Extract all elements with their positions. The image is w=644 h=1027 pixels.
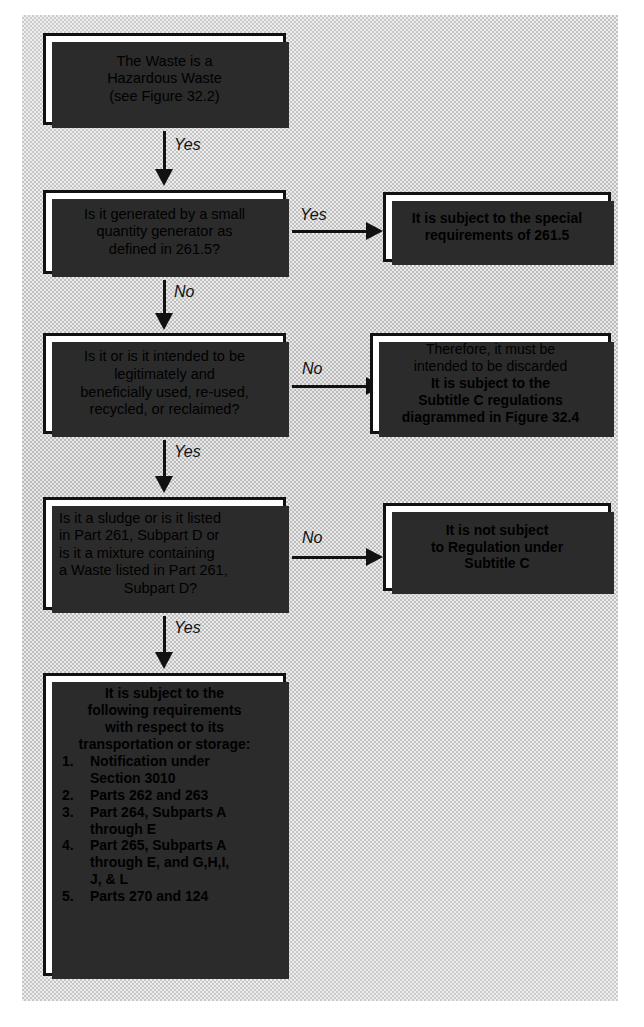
node-r2-line-4: Subtitle C regulations <box>381 392 600 409</box>
node-q1-line-2: quantity generator as <box>54 223 275 241</box>
node-r1: It is subject to the special requirement… <box>383 192 611 262</box>
list-item-line: Part 264, Subparts A <box>90 804 273 821</box>
edge-label-q1-to-q2: No <box>174 283 194 301</box>
node-start-line-3: (see Figure 32.2) <box>54 88 275 106</box>
node-q2-line-3: beneficially used, re-used, <box>54 384 275 402</box>
node-r1-line-1: It is subject to the special <box>394 210 600 227</box>
arrowhead-start-to-q1 <box>155 169 173 186</box>
list-item: 1. Notification under Section 3010 <box>56 753 273 787</box>
node-q3-line-5: Subpart D? <box>59 580 275 598</box>
connector-q1-to-r1 <box>292 230 374 233</box>
node-q2-line-2: legitimately and <box>54 366 275 384</box>
node-r3: It is not subject to Regulation under Su… <box>383 503 611 591</box>
node-start: The Waste is a Hazardous Waste (see Figu… <box>43 33 286 125</box>
connector-q2-to-r2 <box>292 385 374 388</box>
list-item-number: 3. <box>62 804 86 821</box>
arrowhead-q2-to-q3 <box>155 476 173 493</box>
node-r3-line-2: to Regulation under <box>394 539 600 556</box>
list-item-number: 1. <box>62 753 86 770</box>
arrowhead-q3-to-final <box>155 652 173 669</box>
list-item-line: through E <box>90 821 273 838</box>
node-r3-line-1: It is not subject <box>394 522 600 539</box>
list-item-line: Part 265, Subparts A <box>90 837 273 854</box>
edge-label-q2-to-r2: No <box>302 360 322 378</box>
node-q1-line-3: defined in 261.5? <box>54 241 275 259</box>
node-r2-line-3: It is subject to the <box>381 375 600 392</box>
node-start-line-1: The Waste is a <box>54 53 275 71</box>
edge-label-start-to-q1: Yes <box>174 136 201 154</box>
node-q2: Is it or is it intended to be legitimate… <box>43 333 286 434</box>
connector-q3-to-r3 <box>292 556 374 559</box>
node-q3: Is it a sludge or is it listed in Part 2… <box>43 497 286 610</box>
list-item-line: Notification under <box>90 753 273 770</box>
list-item: 2. Parts 262 and 263 <box>56 787 273 804</box>
node-final-head-3: with respect to its <box>56 719 273 736</box>
edge-label-q2-to-q3: Yes <box>174 443 201 461</box>
node-q1-line-1: Is it generated by a small <box>54 206 275 224</box>
node-final-head-1: It is subject to the <box>56 685 273 702</box>
node-q3-line-1: Is it a sludge or is it listed <box>59 510 275 528</box>
list-item-line: Section 3010 <box>90 770 273 787</box>
node-final-requirements: It is subject to the following requireme… <box>43 673 286 976</box>
node-q3-line-2: in Part 261, Subpart D or <box>59 527 275 545</box>
node-q3-line-4: a Waste listed in Part 261, <box>59 562 275 580</box>
node-start-line-2: Hazardous Waste <box>54 70 275 88</box>
arrowhead-q1-to-r1 <box>366 222 383 240</box>
edge-label-q3-to-final: Yes <box>174 619 201 637</box>
node-final-head-2: following requirements <box>56 702 273 719</box>
node-r3-line-3: Subtitle C <box>394 555 600 572</box>
edge-label-q3-to-r3: No <box>302 529 322 547</box>
edge-label-q1-to-r1: Yes <box>300 206 327 224</box>
node-q2-line-1: Is it or is it intended to be <box>54 348 275 366</box>
list-item-number: 2. <box>62 787 86 804</box>
node-final-head-4: transportation or storage: <box>56 736 273 753</box>
list-item-line: J, & L <box>90 871 273 888</box>
list-item: 4. Part 265, Subparts A through E, and G… <box>56 837 273 888</box>
list-item-number: 4. <box>62 837 86 854</box>
figure-canvas: The Waste is a Hazardous Waste (see Figu… <box>0 0 644 1027</box>
node-r2-line-1: Therefore, it must be <box>381 341 600 358</box>
node-r2: Therefore, it must be intended to be dis… <box>370 333 611 434</box>
list-item-number: 5. <box>62 888 86 905</box>
list-item-line: Parts 270 and 124 <box>90 888 273 905</box>
node-r2-line-5: diagrammed in Figure 32.4 <box>381 409 600 426</box>
node-q1: Is it generated by a small quantity gene… <box>43 190 286 274</box>
list-item: 3. Part 264, Subparts A through E <box>56 804 273 838</box>
node-r2-line-2: intended to be discarded <box>381 358 600 375</box>
node-q2-line-4: recycled, or reclaimed? <box>54 401 275 419</box>
arrowhead-q1-to-q2 <box>155 313 173 330</box>
arrowhead-q3-to-r3 <box>366 548 383 566</box>
final-requirements-list: 1. Notification under Section 3010 2. Pa… <box>56 753 273 905</box>
list-item-line: through E, and G,H,I, <box>90 854 273 871</box>
list-item: 5. Parts 270 and 124 <box>56 888 273 905</box>
node-q3-line-3: is it a mixture containing <box>59 545 275 563</box>
list-item-line: Parts 262 and 263 <box>90 787 273 804</box>
node-r1-line-2: requirements of 261.5 <box>394 227 600 244</box>
